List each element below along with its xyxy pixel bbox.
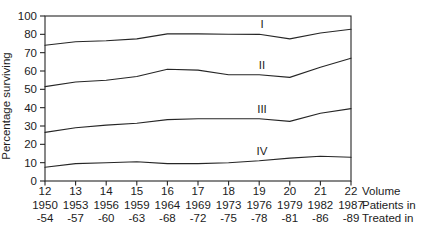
x-tick-label: 1959 — [124, 199, 150, 211]
x-label-row-3: -54-57-60-63-68-72-75-78-81-86-89Treated… — [37, 212, 414, 224]
x-tick-label: 16 — [161, 185, 174, 197]
y-axis-title: Percentage surviving — [0, 52, 12, 159]
y-tick-label: 100 — [18, 10, 37, 22]
y-tick-label: 20 — [24, 138, 37, 150]
x-tick-label: 1953 — [63, 199, 89, 211]
x-tick-label: 1979 — [277, 199, 303, 211]
x-tick-label: 1982 — [308, 199, 334, 211]
y-axis: 01020304050607080100 — [18, 10, 45, 187]
x-label-row-1: 1213141516171819202122Volume — [39, 185, 401, 197]
series-line-II — [45, 58, 351, 86]
x-tick-label: -75 — [220, 212, 237, 224]
x-tick-label: -60 — [98, 212, 115, 224]
x-tick-label: 1976 — [246, 199, 272, 211]
x-tick-label: -63 — [128, 212, 145, 224]
x-tick-label: -89 — [343, 212, 360, 224]
x-tick-label: -68 — [159, 212, 176, 224]
series-label-I: I — [260, 18, 263, 30]
y-tick-label: 50 — [24, 83, 37, 95]
x-tick-label: -81 — [281, 212, 298, 224]
y-tick-label: 30 — [24, 120, 37, 132]
x-row-caption: Treated in — [362, 212, 413, 224]
x-axis: 1213141516171819202122Volume195019531956… — [32, 181, 416, 224]
series-label-II: II — [259, 59, 265, 71]
series-label-III: III — [257, 103, 267, 115]
series-line-IV — [45, 156, 351, 167]
y-tick-label: 40 — [24, 102, 37, 114]
x-tick-label: 22 — [345, 185, 358, 197]
x-tick-label: 17 — [192, 185, 205, 197]
x-tick-label: -78 — [251, 212, 268, 224]
x-tick-label: 1964 — [155, 199, 181, 211]
x-tick-label: 1987 — [338, 199, 364, 211]
x-tick-label: 14 — [100, 185, 113, 197]
x-tick-label: 1950 — [32, 199, 58, 211]
y-tick-label: 70 — [24, 47, 37, 59]
series-line-III — [45, 109, 351, 133]
x-tick-label: -57 — [67, 212, 84, 224]
survival-line-chart: 01020304050607080100Percentage surviving… — [0, 0, 427, 235]
x-label-row-2: 1950195319561959196419691973197619791982… — [32, 199, 416, 211]
x-tick-label: 21 — [314, 185, 327, 197]
x-tick-label: 12 — [39, 185, 52, 197]
x-tick-label: 1956 — [93, 199, 119, 211]
x-tick-label: 19 — [253, 185, 266, 197]
x-tick-label: 1973 — [216, 199, 242, 211]
x-row-caption: Volume — [362, 185, 400, 197]
y-tick-label: 80 — [24, 28, 37, 40]
y-tick-label: 0 — [31, 175, 37, 187]
series-line-I — [45, 29, 351, 45]
x-tick-label: 18 — [222, 185, 235, 197]
x-tick-label: 1969 — [185, 199, 211, 211]
y-tick-label: 60 — [24, 65, 37, 77]
survival-figure: 01020304050607080100Percentage surviving… — [0, 0, 427, 235]
x-tick-label: -86 — [312, 212, 329, 224]
x-tick-label: -72 — [190, 212, 207, 224]
y-tick-label: 10 — [24, 157, 37, 169]
plot-lines: IIIIIIIV — [45, 18, 351, 167]
x-tick-label: -54 — [37, 212, 54, 224]
x-tick-label: 15 — [130, 185, 143, 197]
x-row-caption: Patients in — [362, 199, 416, 211]
x-tick-label: 13 — [69, 185, 82, 197]
series-label-IV: IV — [257, 145, 268, 157]
x-tick-label: 20 — [283, 185, 296, 197]
